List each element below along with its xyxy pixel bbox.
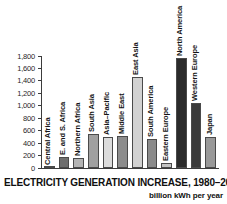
y-axis-tick: 1,000 <box>0 101 42 110</box>
y-axis-tick-label: 600 <box>23 126 35 135</box>
y-axis-tick-label: 0 <box>31 164 35 173</box>
chart-figure: 1,8001,6001,4001,2001,0008006004002000 C… <box>0 0 227 204</box>
bar-category-label: Asia–Pacific <box>103 92 111 135</box>
y-axis-tick: 1,800 <box>0 52 42 61</box>
bar-group[interactable]: East Asia <box>132 56 143 168</box>
bar-group[interactable]: South Asia <box>88 56 99 168</box>
bar-category-label: Central Africa <box>45 117 53 165</box>
y-axis-tick-label: 200 <box>23 151 35 160</box>
bar-group[interactable]: Eastern Europe <box>161 56 172 168</box>
y-axis-tick-label: 1,400 <box>17 76 35 85</box>
chart-title: ELECTRICITY GENERATION INCREASE, 1980–20… <box>4 177 223 188</box>
y-axis-tick: 1,200 <box>0 89 42 98</box>
bar-category-label: Western Europe <box>191 45 199 101</box>
bar-category-label: Northern Africa <box>74 103 82 156</box>
bar-group[interactable]: Northern Africa <box>73 56 84 168</box>
bar-category-label: Eastern Europe <box>162 107 170 161</box>
y-axis-tick: 400 <box>0 139 42 148</box>
y-axis-tick-label: 1,000 <box>17 101 35 110</box>
bar[interactable] <box>117 136 128 168</box>
x-axis-line <box>41 168 219 169</box>
y-axis-tick: 1,600 <box>0 64 42 73</box>
bar-group[interactable]: Western Europe <box>191 56 202 168</box>
bar[interactable] <box>103 137 114 168</box>
bar[interactable] <box>59 157 70 168</box>
y-axis-tick: 1,400 <box>0 76 42 85</box>
bar-category-label: Japan <box>206 114 214 135</box>
bar-group[interactable]: Middle East <box>117 56 128 168</box>
bar[interactable] <box>205 137 216 168</box>
y-axis-tick-label: 1,600 <box>17 64 35 73</box>
y-axis-tick: 0 <box>0 164 42 173</box>
bar[interactable] <box>147 139 158 168</box>
bar[interactable] <box>176 58 187 168</box>
bar[interactable] <box>161 163 172 168</box>
y-axis-tick-label: 1,200 <box>17 89 35 98</box>
y-axis-tick-label: 800 <box>23 114 35 123</box>
bar-group[interactable]: Central Africa <box>44 56 55 168</box>
bar-category-label: East Asia <box>133 43 141 76</box>
bar[interactable] <box>88 134 99 168</box>
bar-group[interactable]: Japan <box>205 56 216 168</box>
plot-area: Central AfricaE. and S. AfricaNorthern A… <box>42 56 218 168</box>
bar[interactable] <box>44 166 55 168</box>
bar[interactable] <box>73 158 84 168</box>
bar-category-label: North America <box>177 6 185 56</box>
y-axis-tick: 600 <box>0 126 42 135</box>
y-axis-tick: 200 <box>0 151 42 160</box>
bar-category-label: South America <box>147 85 155 136</box>
bar-category-label: E. and S. Africa <box>59 102 67 155</box>
y-axis-tick-label: 1,800 <box>17 52 35 61</box>
bar-group[interactable]: E. and S. Africa <box>59 56 70 168</box>
bar[interactable] <box>132 77 143 168</box>
bar-category-label: South Asia <box>89 95 97 133</box>
y-axis-tick: 800 <box>0 114 42 123</box>
bar-group[interactable]: North America <box>176 56 187 168</box>
bar-group[interactable]: Asia–Pacific <box>103 56 114 168</box>
bar-category-label: Middle East <box>118 93 126 134</box>
bar[interactable] <box>191 103 202 168</box>
bar-group[interactable]: South America <box>147 56 158 168</box>
chart-subtitle: billion kWh per year <box>4 191 223 200</box>
y-axis-tick-label: 400 <box>23 139 35 148</box>
